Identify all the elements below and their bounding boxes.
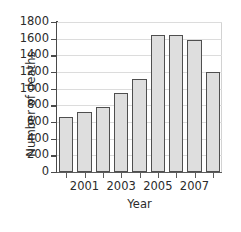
y-axis-tick-label: 400 — [1, 133, 49, 145]
x-axis-tick-mark — [176, 173, 177, 178]
x-axis-tick-mark — [213, 173, 214, 178]
x-axis-tick-label: 2007 — [174, 180, 216, 193]
y-axis-tick-mark — [51, 89, 57, 90]
y-axis-tick-mark — [51, 105, 57, 106]
y-axis-tick-label: 600 — [1, 116, 49, 128]
y-axis-tick-label: 200 — [1, 149, 49, 161]
bar — [96, 107, 111, 172]
x-axis-tick-mark — [140, 173, 141, 178]
y-axis-tick-label: 1200 — [1, 66, 49, 78]
y-axis-tick-mark — [51, 139, 57, 140]
y-axis-tick-mark — [51, 155, 57, 156]
y-axis-tick-mark — [51, 72, 57, 73]
bar — [169, 35, 184, 173]
x-axis-tick-mark — [158, 173, 159, 178]
bar — [132, 79, 147, 172]
bar — [187, 40, 202, 173]
x-axis-tick-mark — [195, 173, 196, 178]
bar — [77, 112, 92, 172]
plot-area — [57, 22, 222, 172]
bar — [59, 117, 74, 172]
y-axis-tick-label: 1600 — [1, 33, 49, 45]
x-axis-tick-mark — [85, 173, 86, 178]
bar — [114, 93, 129, 172]
y-axis-tick-labels: 180016001400120010008006004002000 — [0, 0, 49, 232]
bar — [151, 35, 166, 173]
y-axis-tick-label: 0 — [1, 166, 49, 178]
x-axis-title: Year — [57, 197, 222, 211]
y-axis-tick-label: 1000 — [1, 83, 49, 95]
x-axis-tick-mark — [121, 173, 122, 178]
y-axis-tick-label: 1400 — [1, 49, 49, 61]
y-axis-tick-mark — [51, 122, 57, 123]
y-axis-tick-mark — [51, 39, 57, 40]
bar-chart-figure: Number of deaths 18001600140012001000800… — [0, 0, 241, 232]
y-axis-tick-mark — [51, 22, 57, 23]
x-axis-tick-mark — [66, 173, 67, 178]
y-axis-tick-label: 1800 — [1, 16, 49, 28]
y-axis-tick-label: 800 — [1, 99, 49, 111]
gridline — [57, 22, 222, 23]
x-axis-tick-mark — [103, 173, 104, 178]
y-axis-tick-mark — [51, 172, 57, 173]
y-axis-tick-mark — [51, 55, 57, 56]
bar — [206, 72, 221, 172]
